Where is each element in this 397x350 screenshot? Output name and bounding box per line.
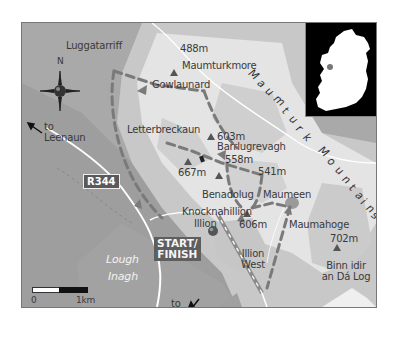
peak-488m: 488m bbox=[180, 43, 208, 54]
place-maumeen: Maumeen bbox=[263, 189, 311, 200]
place-letterbreckaun: Letterbreckaun bbox=[127, 124, 200, 135]
place-illion-west-line1: Illion bbox=[238, 248, 268, 259]
place-benadolug: Benadolug bbox=[202, 189, 254, 200]
lake-label-line1: Lough bbox=[106, 254, 139, 265]
peak-558m: 558m bbox=[225, 154, 253, 165]
place-binn-line1: Binn idir bbox=[322, 260, 370, 271]
place-luggatarriff: Luggatarriff bbox=[66, 40, 122, 51]
lake-label-line2: Inagh bbox=[108, 271, 138, 282]
place-illion: Illion bbox=[194, 218, 217, 229]
peak-603m: 603m bbox=[217, 131, 245, 142]
place-knocknahillion: Knocknahillion bbox=[182, 206, 252, 217]
direction-leenaun: Leenaun bbox=[44, 132, 85, 143]
peak-702m: 702m bbox=[330, 233, 358, 244]
road-badge-r344: R344 bbox=[83, 174, 120, 189]
peak-606m: 606m bbox=[239, 219, 267, 230]
place-barrlugrevagh: Barrlugrevagh bbox=[217, 141, 286, 152]
peak-541m: 541m bbox=[258, 166, 286, 177]
ireland-locator-inset bbox=[305, 23, 377, 117]
direction-leenaun-to: to bbox=[44, 121, 54, 132]
place-illion-west-line2: West bbox=[238, 259, 268, 270]
start-finish-label: START/ FINISH bbox=[154, 237, 201, 261]
place-binn-line2: an Dá Log bbox=[318, 271, 374, 282]
route-map: Luggatarriff Maumturkmore Gowlaunard Let… bbox=[21, 22, 377, 308]
place-maumahoge: Maumahoge bbox=[289, 219, 349, 230]
compass-north-label: N bbox=[57, 56, 64, 67]
place-gowlaunard: Gowlaunard bbox=[152, 79, 210, 90]
place-maumturkmore: Maumturkmore bbox=[182, 60, 257, 71]
ireland-map-icon bbox=[306, 23, 377, 116]
peak-667m: 667m bbox=[178, 167, 206, 178]
scale-end: 1km bbox=[76, 295, 95, 306]
scale-start: 0 bbox=[31, 295, 37, 306]
direction-recess-to: to bbox=[171, 298, 181, 308]
